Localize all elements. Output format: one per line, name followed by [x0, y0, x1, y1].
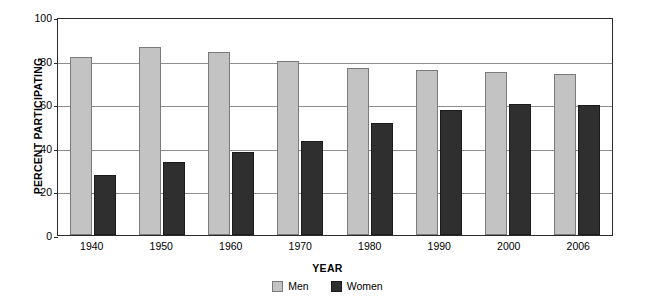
bar-women-1990[interactable]	[440, 110, 462, 235]
bar-men-1950[interactable]	[139, 47, 161, 235]
bar-groups	[58, 19, 612, 235]
bar-women-1950[interactable]	[163, 162, 185, 235]
bar-group-2000	[474, 19, 543, 235]
bar-men-1940[interactable]	[70, 57, 92, 235]
bar-men-1990[interactable]	[416, 70, 438, 235]
y-tick-label-100: 100	[34, 13, 52, 23]
bar-men-2000[interactable]	[485, 72, 507, 235]
legend-swatch-women-icon	[331, 281, 342, 292]
x-tick-label-2000: 2000	[474, 240, 544, 252]
x-tick-label-1990: 1990	[405, 240, 475, 252]
x-tick-label-1940: 1940	[57, 240, 127, 252]
bar-group-1960	[197, 19, 266, 235]
bar-women-1970[interactable]	[301, 141, 323, 235]
y-tick-label-40: 40	[40, 144, 52, 154]
y-tick-mark-0	[54, 237, 58, 238]
legend-item-women[interactable]: Women	[331, 280, 383, 292]
x-axis-title: YEAR	[0, 262, 655, 274]
x-tick-label-1980: 1980	[335, 240, 405, 252]
y-tick-label-80: 80	[40, 57, 52, 67]
y-tick-label-0: 0	[46, 231, 52, 241]
bar-men-1970[interactable]	[277, 61, 299, 235]
chart-legend: MenWomen	[0, 280, 655, 292]
plot-area	[57, 18, 613, 236]
bar-group-1950	[127, 19, 196, 235]
bar-men-2006[interactable]	[554, 74, 576, 235]
x-tick-label-1970: 1970	[266, 240, 336, 252]
legend-label-men: Men	[288, 280, 308, 292]
bar-women-1960[interactable]	[232, 152, 254, 235]
x-tick-label-1960: 1960	[196, 240, 266, 252]
bar-group-1940	[58, 19, 127, 235]
bar-women-2006[interactable]	[578, 105, 600, 235]
bar-men-1980[interactable]	[347, 68, 369, 235]
bar-group-1980	[335, 19, 404, 235]
x-axis-tick-labels: 19401950196019701980199020002006	[57, 240, 613, 252]
bar-chart: PERCENT PARTICIPATING 020406080100 19401…	[0, 0, 655, 305]
bar-group-1970	[266, 19, 335, 235]
bar-women-2000[interactable]	[509, 104, 531, 235]
bar-women-1980[interactable]	[371, 123, 393, 235]
y-tick-label-60: 60	[40, 100, 52, 110]
bar-men-1960[interactable]	[208, 52, 230, 235]
bar-group-2006	[543, 19, 612, 235]
bar-group-1990	[404, 19, 473, 235]
legend-swatch-men-icon	[272, 281, 283, 292]
legend-label-women: Women	[347, 280, 383, 292]
y-tick-label-20: 20	[40, 187, 52, 197]
x-tick-label-1950: 1950	[127, 240, 197, 252]
y-axis-tick-labels: 020406080100	[22, 18, 52, 236]
bar-women-1940[interactable]	[94, 175, 116, 235]
legend-item-men[interactable]: Men	[272, 280, 308, 292]
x-tick-label-2006: 2006	[544, 240, 614, 252]
